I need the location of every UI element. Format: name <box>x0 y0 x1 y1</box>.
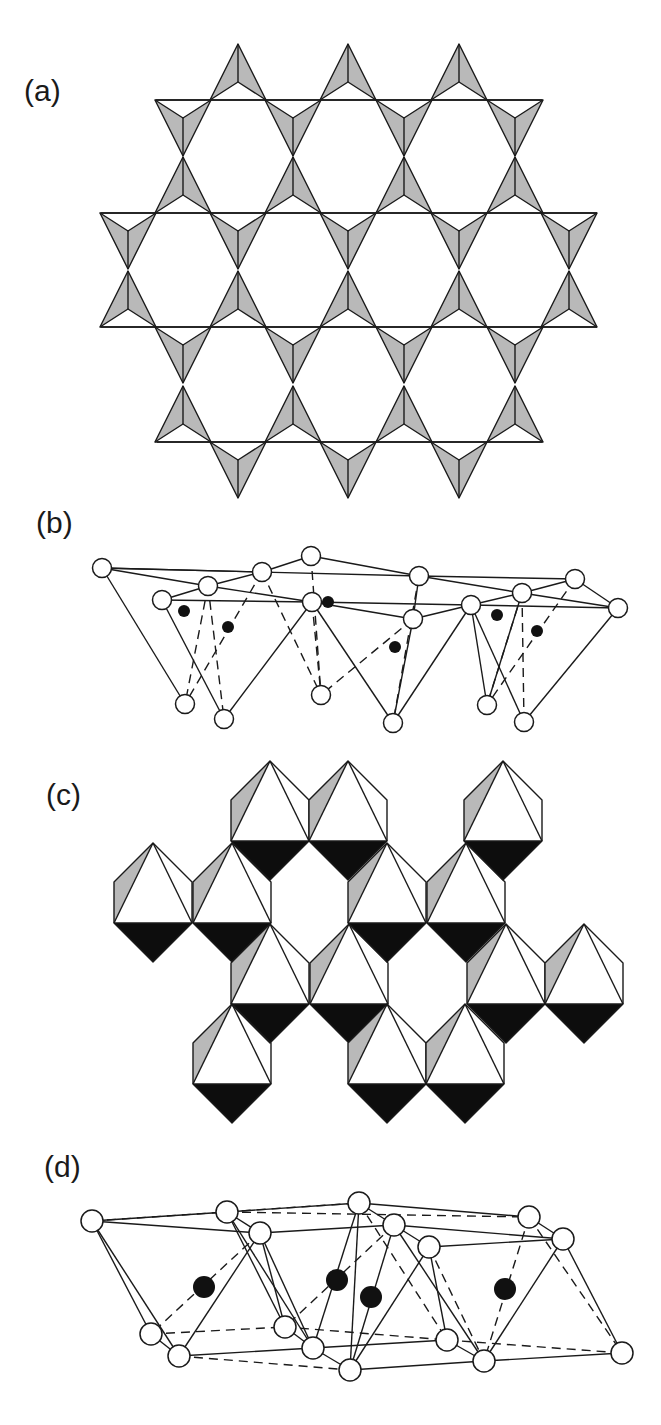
tetrahedron-down <box>265 327 321 383</box>
tetrahedron-down <box>541 213 597 269</box>
tetrahedron-up <box>320 44 376 100</box>
anion-atom <box>274 1316 296 1338</box>
anion-atom <box>513 584 532 603</box>
anion-atom <box>339 1359 361 1381</box>
cation-atom <box>222 621 234 633</box>
anion-atom <box>312 686 331 705</box>
anion-atom <box>153 591 172 610</box>
tetrahedron-up <box>487 157 543 213</box>
bond <box>224 602 312 719</box>
anion-atom <box>518 1206 540 1228</box>
octahedron-bottom-facet <box>464 841 542 880</box>
tetrahedron-up <box>487 386 543 442</box>
octahedron <box>114 843 192 962</box>
anion-atom <box>348 1192 370 1214</box>
bond <box>208 586 312 602</box>
bond <box>179 1233 260 1356</box>
bond <box>312 602 471 605</box>
bond <box>487 593 522 705</box>
anion-atom <box>303 593 322 612</box>
tetrahedron-up <box>376 157 432 213</box>
bond-hidden <box>185 586 208 704</box>
cation-atom <box>326 1269 348 1291</box>
bond <box>419 576 522 593</box>
anion-atom <box>473 1350 495 1372</box>
bond <box>419 576 575 579</box>
tetrahedron-down <box>487 327 543 383</box>
tetrahedron-down <box>320 442 376 498</box>
bond <box>524 608 618 722</box>
tetrahedron-up <box>100 271 156 327</box>
bond <box>227 1203 359 1212</box>
tetrahedron-down <box>431 442 487 498</box>
anion-atom <box>566 570 585 589</box>
octahedron-bottom-facet <box>193 1084 271 1123</box>
anion-atom <box>215 710 234 729</box>
tetrahedron-down <box>210 442 266 498</box>
anion-atom <box>515 713 534 732</box>
bond <box>92 1221 179 1356</box>
tetrahedron-down <box>376 100 432 156</box>
anion-atom <box>302 547 321 566</box>
anion-atom <box>552 1228 574 1250</box>
tetrahedron-up <box>265 386 321 442</box>
anion-atom <box>418 1236 440 1258</box>
crystal-structure-figure <box>0 0 661 1425</box>
octahedron-bottom-facet <box>545 1004 623 1043</box>
bond <box>394 1225 563 1239</box>
anion-atom <box>462 596 481 615</box>
bond-hidden <box>311 556 321 695</box>
bond-hidden <box>179 1356 350 1370</box>
anion-atom <box>611 1342 633 1364</box>
tetrahedron-up <box>155 386 211 442</box>
anion-atom <box>216 1201 238 1223</box>
bond <box>92 1221 151 1334</box>
bond <box>313 1340 447 1348</box>
tetrahedron-up <box>541 271 597 327</box>
tetrahedron-down <box>320 213 376 269</box>
tetrahedron-up <box>431 271 487 327</box>
tetrahedron-down <box>210 213 266 269</box>
anion-atom <box>436 1329 458 1351</box>
panel-d-octahedral-ball-stick <box>81 1192 633 1381</box>
anion-atom <box>410 567 429 586</box>
bond-hidden <box>208 586 224 719</box>
tetrahedron-down <box>155 100 211 156</box>
bond <box>429 1239 563 1247</box>
anion-atom <box>302 1337 324 1359</box>
tetrahedron-up <box>265 157 321 213</box>
tetrahedron-down <box>155 327 211 383</box>
octahedron-bottom-facet <box>231 1004 309 1043</box>
bond-hidden <box>522 593 524 722</box>
panel-a-tetrahedral-kagome-net <box>100 44 597 498</box>
anion-atom <box>176 695 195 714</box>
anion-atom <box>609 599 628 618</box>
panel-c-octahedral-layer <box>114 761 623 1123</box>
cation-atom <box>193 1276 215 1298</box>
bond-hidden <box>447 1340 622 1353</box>
bond <box>162 600 312 602</box>
tetrahedron-up <box>210 271 266 327</box>
octahedron-bottom-facet <box>426 1084 504 1123</box>
octahedron <box>545 924 623 1043</box>
cation-atom <box>178 605 190 617</box>
bond-hidden <box>312 602 321 695</box>
octahedron-bottom-facet <box>467 1004 545 1043</box>
bond <box>350 1361 484 1370</box>
cation-atom <box>360 1286 382 1308</box>
tetrahedron-down <box>265 100 321 156</box>
cation-atom <box>494 1278 516 1300</box>
tetrahedron-up <box>320 271 376 327</box>
bond <box>429 1247 447 1340</box>
tetrahedron-up <box>155 157 211 213</box>
anion-atom <box>81 1210 103 1232</box>
bond-hidden <box>151 1327 285 1334</box>
tetrahedron-down <box>100 213 156 269</box>
anion-atom <box>384 714 403 733</box>
bond-hidden <box>262 572 321 695</box>
tetrahedron-up <box>431 44 487 100</box>
anion-atom <box>140 1323 162 1345</box>
octahedron-bottom-facet <box>348 923 426 962</box>
anion-atom <box>404 610 423 629</box>
bond <box>563 1239 622 1353</box>
